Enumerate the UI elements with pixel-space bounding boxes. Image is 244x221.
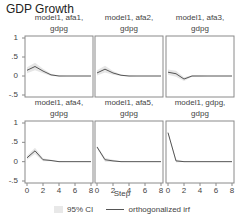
irf-line-icon <box>106 209 124 210</box>
ci-swatch-icon <box>54 206 63 213</box>
x-axis-label: Step <box>0 189 244 198</box>
legend-ci-label: 95% CI <box>67 205 93 214</box>
panel-frame <box>95 121 163 183</box>
panel-frame <box>166 121 234 183</box>
legend: 95% CI orthogonalized irf <box>0 205 244 214</box>
panel-frame <box>166 36 234 97</box>
plot-area <box>0 0 244 221</box>
legend-irf-label: orthogonalized irf <box>129 205 190 214</box>
